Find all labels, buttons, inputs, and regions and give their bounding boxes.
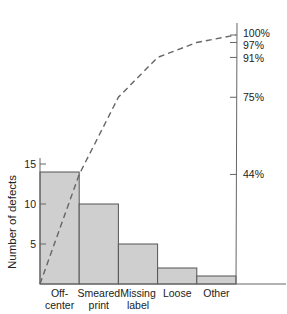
x-labels: Off-centerSmearedprintMissinglabelLooseO… <box>45 287 230 311</box>
pareto-chart: 51015 44%75%91%97%100% Off-centerSmeared… <box>0 0 287 314</box>
x-tick-label: Off- <box>51 287 69 299</box>
bar-smeared-print <box>79 204 118 284</box>
x-tick-label: Missing <box>120 287 156 299</box>
bars-group <box>40 172 236 284</box>
y-tick-label: 15 <box>24 158 36 170</box>
y-axis-label: Number of defects <box>6 175 18 269</box>
x-tick-label: print <box>89 299 110 311</box>
right-ticks: 44%75%91%97%100% <box>230 27 270 180</box>
x-tick-label: Other <box>203 287 230 299</box>
right-tick-label: 44% <box>243 168 264 180</box>
right-tick-label: 75% <box>243 91 264 103</box>
y-tick-label: 5 <box>30 238 36 250</box>
right-tick-label: 97% <box>243 39 264 51</box>
x-tick-label: Smeared <box>77 287 120 299</box>
right-y-axis <box>236 23 237 284</box>
bar-missing-label <box>118 244 157 284</box>
y-tick-label: 10 <box>24 198 36 210</box>
bar-other <box>197 276 236 284</box>
x-tick-label: Loose <box>163 287 192 299</box>
bar-loose <box>158 268 197 284</box>
right-tick-label: 91% <box>243 52 264 64</box>
right-tick-label: 100% <box>243 27 270 39</box>
x-tick-label: center <box>45 299 75 311</box>
x-tick-label: label <box>127 299 149 311</box>
